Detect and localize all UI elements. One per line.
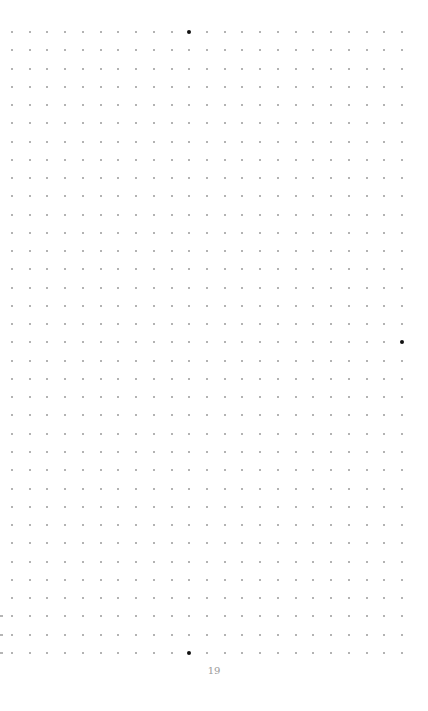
grid-dot (366, 49, 368, 51)
grid-dot (401, 414, 403, 416)
grid-dot (153, 104, 155, 106)
grid-dot (100, 652, 102, 654)
grid-dot (241, 396, 243, 398)
grid-dot (206, 542, 208, 544)
grid-dot (348, 652, 350, 654)
grid-dot (100, 159, 102, 161)
grid-dot (259, 31, 261, 33)
grid-dot (188, 159, 190, 161)
grid-dot (135, 561, 137, 563)
grid-dot (330, 542, 332, 544)
grid-dot (46, 579, 48, 581)
grid-dot (295, 214, 297, 216)
grid-dot (366, 323, 368, 325)
grid-dot (259, 433, 261, 435)
grid-dot (295, 305, 297, 307)
grid-dot (241, 86, 243, 88)
grid-dot (171, 31, 173, 33)
grid-dot (206, 579, 208, 581)
grid-dot (64, 378, 66, 380)
grid-dot (312, 49, 314, 51)
grid-dot (117, 159, 119, 161)
grid-dot (224, 250, 226, 252)
grid-dot (188, 214, 190, 216)
grid-dot (312, 615, 314, 617)
grid-dot (206, 195, 208, 197)
grid-dot (348, 414, 350, 416)
grid-dot (259, 287, 261, 289)
grid-dot (64, 634, 66, 636)
grid-dot (82, 214, 84, 216)
grid-dot (29, 287, 31, 289)
grid-dot (82, 323, 84, 325)
highlighted-dot (187, 651, 191, 655)
grid-dot (64, 177, 66, 179)
grid-dot (64, 433, 66, 435)
grid-dot (135, 488, 137, 490)
grid-dot (11, 68, 13, 70)
grid-dot (64, 104, 66, 106)
grid-dot (117, 141, 119, 143)
grid-dot (241, 451, 243, 453)
grid-dot (330, 250, 332, 252)
grid-dot (153, 159, 155, 161)
grid-dot (206, 469, 208, 471)
grid-dot (29, 250, 31, 252)
grid-dot (383, 542, 385, 544)
grid-dot (135, 104, 137, 106)
grid-dot (348, 433, 350, 435)
grid-dot (295, 250, 297, 252)
grid-dot (153, 469, 155, 471)
grid-dot (29, 414, 31, 416)
grid-dot (401, 579, 403, 581)
grid-dot (259, 232, 261, 234)
grid-dot (82, 414, 84, 416)
grid-dot (259, 451, 261, 453)
grid-dot (259, 634, 261, 636)
grid-dot (366, 250, 368, 252)
grid-dot (312, 396, 314, 398)
grid-dot (348, 122, 350, 124)
grid-dot (29, 86, 31, 88)
grid-dot (117, 360, 119, 362)
grid-dot (64, 615, 66, 617)
grid-dot (46, 561, 48, 563)
grid-dot (100, 579, 102, 581)
grid-dot (348, 378, 350, 380)
grid-dot (295, 488, 297, 490)
grid-dot (206, 652, 208, 654)
grid-dot (366, 141, 368, 143)
grid-dot (11, 122, 13, 124)
grid-dot (153, 323, 155, 325)
grid-dot (206, 86, 208, 88)
grid-dot (383, 177, 385, 179)
grid-dot (29, 542, 31, 544)
grid-dot (135, 177, 137, 179)
grid-dot (171, 488, 173, 490)
grid-dot (153, 195, 155, 197)
grid-dot (11, 159, 13, 161)
grid-dot (117, 542, 119, 544)
grid-dot (224, 232, 226, 234)
grid-dot (188, 232, 190, 234)
grid-dot (224, 524, 226, 526)
grid-dot (117, 488, 119, 490)
grid-dot (171, 177, 173, 179)
grid-dot (330, 615, 332, 617)
grid-dot (206, 414, 208, 416)
grid-dot (64, 86, 66, 88)
grid-dot (241, 634, 243, 636)
grid-dot (11, 31, 13, 33)
grid-dot (277, 49, 279, 51)
grid-dot (29, 634, 31, 636)
grid-dot (117, 287, 119, 289)
grid-dot (224, 615, 226, 617)
grid-dot (135, 597, 137, 599)
grid-dot (171, 396, 173, 398)
grid-dot (383, 579, 385, 581)
grid-dot (206, 488, 208, 490)
grid-dot (100, 250, 102, 252)
grid-dot (330, 232, 332, 234)
grid-dot (11, 195, 13, 197)
grid-dot (259, 488, 261, 490)
